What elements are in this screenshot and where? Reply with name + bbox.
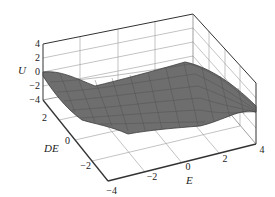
x-tick: 2 [223,153,228,164]
x-axis-label: E [185,174,193,186]
surface-plot: 4 2 0 −2 −4 U 2 0 −2 −4 DE −2 0 2 4 E [0,0,275,197]
z-tick: 0 [35,66,40,77]
y-tick: −2 [80,160,91,171]
y-tick: 2 [42,112,47,123]
y-axis-label: DE [43,142,59,154]
z-tick: −2 [29,80,40,91]
y-tick: 0 [65,135,70,146]
x-tick: 0 [186,161,191,172]
z-axis-label: U [18,64,27,76]
z-tick: 4 [35,38,40,49]
x-tick: 4 [260,144,265,155]
x-axis-ticks: −2 0 2 4 [147,144,265,182]
surface [43,62,256,134]
z-tick: 2 [35,52,40,63]
y-tick: −4 [106,185,117,196]
z-tick: −4 [29,94,40,105]
z-axis-ticks: 4 2 0 −2 −4 [29,38,40,105]
x-tick: −2 [147,171,158,182]
